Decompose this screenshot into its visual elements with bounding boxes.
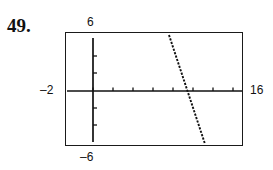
x-max-label: 16 [250, 84, 263, 96]
plotted-line [169, 35, 205, 144]
problem-number: 49. [7, 16, 31, 35]
y-max-label: 6 [87, 16, 94, 28]
plotted-line-series [169, 35, 205, 144]
graph-figure: 49. [0, 0, 273, 170]
graph-plot-area [66, 33, 243, 146]
y-min-label: –6 [80, 151, 93, 163]
graph-viewing-window [65, 32, 243, 146]
x-min-label: –2 [40, 84, 53, 96]
y-axis [93, 38, 97, 142]
